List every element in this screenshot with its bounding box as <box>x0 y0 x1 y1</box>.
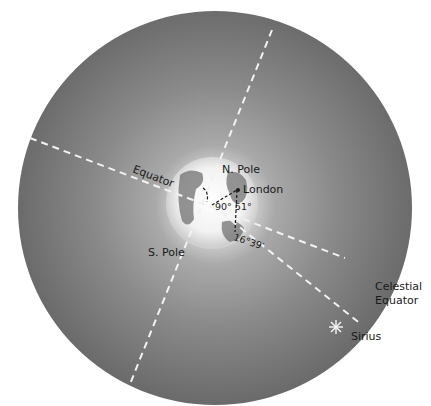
sirius-star-icon <box>329 320 343 334</box>
celestial-equator-label-1: Celestial <box>375 280 422 293</box>
celestial-sphere-diagram: N. Pole London S. Pole Equator 90° 51° 1… <box>0 0 431 406</box>
sirius-label: Sirius <box>351 330 382 343</box>
celestial-equator-label-2: Equator <box>375 294 419 307</box>
latitude-angle-label: 90° 51° <box>215 201 252 212</box>
london-label: London <box>243 183 283 196</box>
london-marker-icon <box>236 188 240 192</box>
south-pole-label: S. Pole <box>148 246 185 259</box>
north-pole-label: N. Pole <box>222 163 260 176</box>
